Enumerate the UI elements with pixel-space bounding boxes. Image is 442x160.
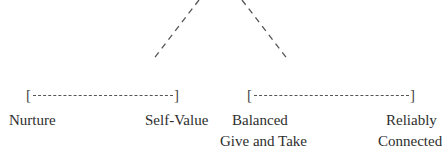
label-connected: Connected <box>378 131 442 151</box>
label-balanced: Balanced <box>232 110 288 130</box>
label-give-and-take: Give and Take <box>220 131 307 151</box>
left-spectrum-bracket: [ ] <box>26 86 180 104</box>
label-reliably: Reliably <box>386 110 437 130</box>
right-bracket-dashes <box>254 95 409 96</box>
left-bracket-close: ] <box>174 86 179 104</box>
right-branch-dashed-line <box>242 0 289 61</box>
left-branch-dashed-line <box>152 0 199 61</box>
right-spectrum-bracket: [ ] <box>247 86 416 104</box>
left-bracket-dashes <box>33 95 173 96</box>
right-bracket-close: ] <box>410 86 415 104</box>
right-bracket-open: [ <box>247 86 252 104</box>
label-self-value: Self-Value <box>145 110 208 130</box>
label-nurture: Nurture <box>9 110 56 130</box>
left-bracket-open: [ <box>26 86 31 104</box>
